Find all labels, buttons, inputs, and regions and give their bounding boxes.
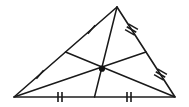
tick-right-upper-icon: [125, 24, 138, 35]
geometry-figure-container: [0, 0, 189, 107]
centroid-point: [99, 66, 105, 72]
median-group: [14, 7, 175, 97]
triangle-outline: [14, 7, 175, 97]
tick-left-lower-icon: [36, 70, 43, 78]
tick-right-lower-icon: [154, 69, 167, 80]
triangle-medians-diagram: [0, 0, 189, 107]
tick-left-upper-icon: [88, 25, 95, 33]
median-from-apex-line: [95, 7, 118, 97]
